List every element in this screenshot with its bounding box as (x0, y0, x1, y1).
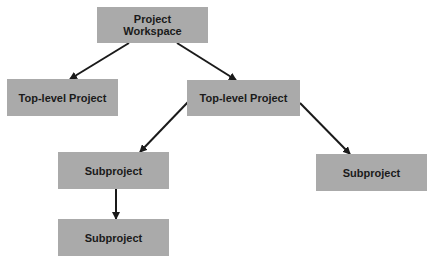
arrow-top-level-right-to-subproject-b (300, 103, 350, 154)
arrow-workspace-to-top-level-left (70, 43, 129, 79)
node-project-workspace: Project Workspace (97, 7, 208, 43)
node-label: Subproject (85, 165, 142, 177)
arrow-workspace-to-top-level-right (177, 43, 236, 80)
node-label: Project Workspace (123, 13, 182, 37)
node-subproject: Subproject (58, 152, 169, 189)
project-hierarchy-diagram: Project Workspace Top-level Project Top-… (0, 0, 432, 263)
arrow-top-level-right-to-subproject-a (140, 102, 188, 152)
node-label: Top-level Project (19, 92, 107, 104)
node-top-level-project-right: Top-level Project (187, 80, 300, 116)
node-label: Top-level Project (200, 92, 288, 104)
node-subproject-right: Subproject (316, 154, 427, 191)
node-label: Subproject (85, 232, 142, 244)
node-label: Subproject (343, 167, 400, 179)
node-subproject-child: Subproject (58, 219, 169, 256)
node-top-level-project-left: Top-level Project (7, 79, 118, 116)
